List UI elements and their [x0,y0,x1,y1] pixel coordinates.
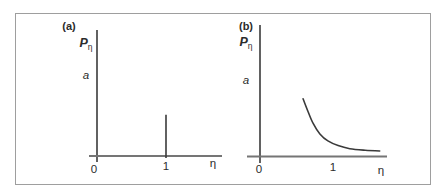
figure-canvas: (a) Pη a 0 1 η (b) Pη a 0 1 η [0,0,448,193]
panel-b-x-tick-1: 1 [330,162,336,174]
panel-b-y-subscript: η [248,41,253,51]
panel-a-label: (a) [62,21,75,32]
panel-b-y-axis-label: Pη [239,36,252,51]
figure-frame [15,13,431,185]
panel-b-x-tick-0: 0 [256,164,262,176]
panel-a-x-axis-label: η [210,158,216,170]
panel-b-y-mark-a: a [243,75,249,87]
panel-a-y-axis-label: Pη [79,37,92,52]
panel-a-x-tick-0: 0 [91,164,97,176]
panel-a-y-mark-a: a [83,70,89,82]
panel-a-x-tick-1: 1 [163,161,169,173]
panel-b-x-axis-label: η [378,165,384,177]
panel-a-y-subscript: η [88,42,93,52]
panel-b-label: (b) [239,21,253,32]
